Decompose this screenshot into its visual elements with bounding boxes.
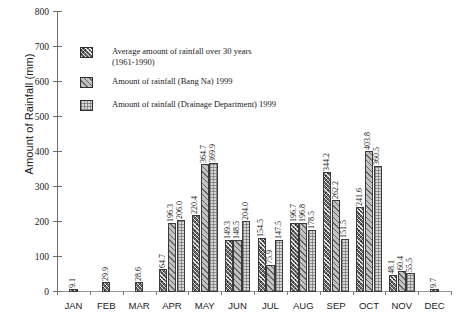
bar-sep-series-3: 151.5 xyxy=(341,239,349,292)
bar-value-label: 206.0 xyxy=(175,201,184,219)
bar-value-label: 204.0 xyxy=(241,202,250,220)
x-axis-tick xyxy=(287,291,288,295)
bar-value-label: 55.5 xyxy=(405,258,414,272)
bar-oct-series-3: 360.5 xyxy=(374,166,382,292)
x-axis-tick xyxy=(353,291,354,295)
bar-jul-series-3: 147.5 xyxy=(275,240,283,292)
bar-jun-series-2: 148.5 xyxy=(233,240,241,292)
bar-oct-series-1: 241.6 xyxy=(356,207,364,292)
bar-apr-series-1: 64.7 xyxy=(159,269,167,292)
bar-aug-series-1: 196.7 xyxy=(290,223,298,292)
bar-value-label: 75.9 xyxy=(265,250,274,264)
bar-value-label: 196.7 xyxy=(289,204,298,222)
x-axis-tick xyxy=(156,291,157,295)
bar-oct-series-2: 403.8 xyxy=(365,151,373,292)
bar-group-sep: 344.2262.2151.5SEP xyxy=(323,12,349,292)
x-axis-label-aug: AUG xyxy=(293,300,314,311)
bar-value-label: 148.5 xyxy=(232,221,241,239)
chart-legend: Average amount of rainfall over 30 years… xyxy=(80,46,276,122)
y-axis-tick-label: 700 xyxy=(35,42,49,52)
bar-value-label: 154.5 xyxy=(256,219,265,237)
x-axis-tick xyxy=(90,291,91,295)
bar-jul-series-2: 75.9 xyxy=(266,265,274,292)
x-axis-tick xyxy=(418,291,419,295)
bar-value-label: 364.7 xyxy=(199,145,208,163)
x-axis-label-dec: DEC xyxy=(425,300,445,311)
y-axis-tick xyxy=(53,46,62,47)
y-axis-tick-label: 300 xyxy=(35,182,49,192)
bar-value-label: 9.7 xyxy=(429,278,438,288)
x-axis-label-mar: MAR xyxy=(129,300,150,311)
y-axis-tick-label: 400 xyxy=(35,147,49,157)
bar-aug-series-2: 196.8 xyxy=(299,223,307,292)
bar-feb-series-1: 29.9 xyxy=(102,282,110,292)
bar-value-label: 241.6 xyxy=(355,188,364,206)
legend-label-series-1-line1: Average amount of rainfall over 30 years xyxy=(112,46,276,57)
y-axis-tick xyxy=(53,116,62,117)
bar-jan-series-1: 9.1 xyxy=(69,289,77,292)
bar-value-label: 196.8 xyxy=(298,204,307,222)
bar-value-label: 9.1 xyxy=(68,278,77,288)
bar-jun-series-3: 204.0 xyxy=(242,221,250,292)
bar-may-series-3: 369.9 xyxy=(209,163,217,292)
bar-group-nov: 48.160.455.5NOV xyxy=(389,12,415,292)
y-axis-tick-label: 200 xyxy=(35,217,49,227)
bar-may-series-2: 364.7 xyxy=(201,164,209,292)
y-axis-tick-label: 0 xyxy=(44,287,49,297)
bar-nov-series-1: 48.1 xyxy=(389,275,397,292)
y-axis-tick xyxy=(53,256,62,257)
x-axis-label-sep: SEP xyxy=(327,300,346,311)
bar-value-label: 147.5 xyxy=(274,221,283,239)
y-axis-tick xyxy=(53,221,62,222)
bar-value-label: 178.5 xyxy=(307,211,316,229)
x-axis-tick xyxy=(188,291,189,295)
x-axis-label-oct: OCT xyxy=(359,300,379,311)
x-axis-label-jan: JAN xyxy=(64,300,82,311)
legend-label-series-2-line1: Amount of rainfall (Bang Na) 1999 xyxy=(112,76,276,87)
legend-swatch-icon-series-1 xyxy=(80,47,93,58)
bar-may-series-1: 220.4 xyxy=(192,215,200,292)
y-axis-line xyxy=(57,12,58,292)
x-axis-tick xyxy=(320,291,321,295)
legend-item-average-30-years: Average amount of rainfall over 30 years… xyxy=(80,46,276,67)
bar-value-label: 149.3 xyxy=(223,221,232,239)
bar-apr-series-3: 206.0 xyxy=(177,220,185,292)
legend-swatch-icon-series-2 xyxy=(80,77,93,88)
x-axis-label-jul: JUL xyxy=(262,300,279,311)
bar-nov-series-3: 55.5 xyxy=(406,273,414,292)
bar-value-label: 262.2 xyxy=(331,181,340,199)
y-axis-tick-label: 600 xyxy=(35,77,49,87)
legend-swatch-icon-series-3 xyxy=(80,100,93,111)
bar-value-label: 60.4 xyxy=(396,256,405,270)
legend-item-bang-na-1999: Amount of rainfall (Bang Na) 1999 xyxy=(80,76,276,90)
bar-value-label: 360.5 xyxy=(372,147,381,165)
bar-group-jan: 9.1JAN xyxy=(69,12,77,292)
y-axis-tick xyxy=(53,151,62,152)
bar-sep-series-2: 262.2 xyxy=(332,200,340,292)
x-axis-label-feb: FEB xyxy=(97,300,115,311)
bar-aug-series-3: 178.5 xyxy=(308,230,316,292)
bar-group-dec: 9.7DEC xyxy=(430,12,438,292)
y-axis-tick xyxy=(53,11,62,12)
bar-value-label: 28.6 xyxy=(134,267,143,281)
y-axis-tick-label: 500 xyxy=(35,112,49,122)
bar-dec-series-1: 9.7 xyxy=(430,289,438,292)
legend-label-series-3-line1: Amount of rainfall (Drainage Department)… xyxy=(112,99,276,110)
x-axis-tick xyxy=(451,291,452,295)
bar-mar-series-1: 28.6 xyxy=(135,282,143,292)
bar-jun-series-1: 149.3 xyxy=(225,240,233,292)
x-axis-tick xyxy=(221,291,222,295)
legend-item-drainage-department-1999: Amount of rainfall (Drainage Department)… xyxy=(80,99,276,113)
bar-group-aug: 196.7196.8178.5AUG xyxy=(290,12,316,292)
y-axis-tick-label: 100 xyxy=(35,252,49,262)
bar-value-label: 344.2 xyxy=(322,153,331,171)
bar-apr-series-2: 196.3 xyxy=(168,223,176,292)
y-axis-tick-label: 800 xyxy=(35,7,49,17)
bar-value-label: 64.7 xyxy=(158,254,167,268)
y-axis-tick xyxy=(53,81,62,82)
legend-label-series-1-line2: (1961-1990) xyxy=(112,57,276,68)
y-axis-title: Amount of Rainfall (mm) xyxy=(23,19,35,209)
x-axis-label-apr: APR xyxy=(162,300,182,311)
rainfall-bar-chart: Amount of Rainfall (mm) 0100200300400500… xyxy=(0,0,465,326)
x-axis-label-nov: NOV xyxy=(391,300,412,311)
